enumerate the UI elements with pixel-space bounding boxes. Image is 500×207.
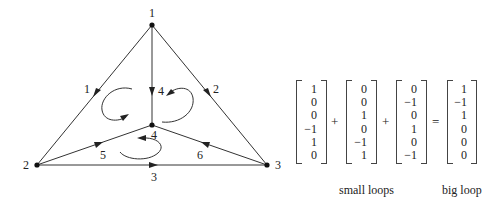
vector-entry: 0 (297, 96, 326, 108)
vector-entry: 0 (297, 109, 326, 121)
node-label-3: 3 (275, 158, 281, 172)
caption-big-loop: big loop (442, 184, 482, 196)
small-loops (102, 88, 193, 159)
vector-big-loop: 1 −1 1 0 0 0 (447, 80, 477, 164)
edge-label-2: 2 (213, 82, 219, 96)
vector-entry: 0 (347, 96, 376, 108)
vector-entry: 0 (448, 123, 476, 135)
node-4 (149, 122, 154, 127)
vector-entry: 1 (347, 109, 376, 121)
edge-3-arrow-icon (149, 162, 158, 168)
edge-1-arrow-icon (93, 88, 101, 97)
edge-label-4: 4 (158, 84, 164, 98)
caption-small-loops: small loops (339, 184, 394, 196)
vector-entry: −1 (448, 96, 476, 108)
edge-2-arrow-icon (203, 88, 211, 97)
edge-label-6: 6 (197, 148, 203, 162)
right-loop (162, 88, 193, 122)
vector-entry: 0 (297, 149, 326, 161)
node-2 (34, 162, 39, 167)
plus-operator-1: + (331, 115, 338, 128)
vector-entry: 0 (448, 149, 476, 161)
vector-entry: 1 (347, 149, 376, 161)
vector-entry: 1 (448, 109, 476, 121)
vector-entry: −1 (397, 96, 426, 108)
edge-label-5: 5 (100, 148, 106, 162)
vector-small-loop-3: 0 −1 0 1 0 −1 (396, 80, 427, 164)
equals-operator: = (432, 115, 439, 128)
vector-entry: 1 (297, 83, 326, 95)
node-1 (149, 22, 154, 27)
edge-6 (152, 125, 267, 165)
vector-small-loop-1: 1 0 0 −1 1 0 (296, 80, 327, 164)
node-label-1: 1 (149, 6, 155, 20)
vector-entry: 0 (397, 136, 426, 148)
node-3 (264, 162, 269, 167)
vector-small-loop-2: 0 0 1 0 −1 1 (346, 80, 377, 164)
edge-label-3: 3 (151, 170, 157, 184)
vector-entry: 1 (297, 136, 326, 148)
edge-label-1: 1 (84, 82, 90, 96)
vector-entry: −1 (397, 149, 426, 161)
vector-entry: −1 (297, 123, 326, 135)
vector-entry: 0 (347, 123, 376, 135)
vector-entry: 0 (448, 136, 476, 148)
vector-entry: 0 (397, 109, 426, 121)
plus-operator-2: + (382, 115, 389, 128)
vector-entry: 1 (397, 123, 426, 135)
vector-entry: −1 (347, 136, 376, 148)
vector-entry: 0 (347, 83, 376, 95)
left-loop-arrow-icon (120, 114, 129, 121)
vector-entry: 1 (448, 83, 476, 95)
node-label-2: 2 (23, 158, 29, 172)
edge-4-arrow-icon (149, 87, 155, 96)
bottom-loop-arrow-icon (137, 135, 146, 141)
vector-entry: 0 (397, 83, 426, 95)
node-label-4: 4 (151, 128, 157, 142)
